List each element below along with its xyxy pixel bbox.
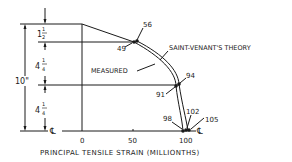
centerline-symbol-left: ℄ [49, 126, 56, 136]
dim-bot-num: 1 [42, 101, 45, 107]
theory-label: SAINT-VENANT'S THEORY [169, 44, 251, 52]
label-98: 98 [163, 115, 172, 123]
point-91 [174, 84, 178, 88]
label-56: 56 [143, 21, 152, 29]
measured-leader [137, 64, 155, 71]
centerline-symbol-right: ℄ [196, 126, 203, 136]
point-105 [187, 128, 191, 132]
tick-label-50: 50 [128, 137, 137, 145]
dim-total: 10" [15, 77, 29, 86]
dim-mid-den: 4 [42, 66, 45, 72]
strain-diagram: 1 1 2 4 1 4 4 1 4 10" ℄ ℄ 0 50 100 PRINC… [0, 0, 292, 162]
dim-mid-whole: 4 [35, 62, 40, 71]
label-105: 105 [205, 116, 218, 124]
dim-mid-num: 1 [42, 57, 45, 63]
label-102: 102 [186, 108, 199, 116]
label-49: 49 [117, 45, 126, 53]
label-91: 91 [156, 91, 165, 99]
dim-top-num: 1 [42, 26, 45, 32]
tick-label-0: 0 [80, 137, 84, 145]
point-94 [177, 82, 181, 86]
xaxis-title: PRINCIPAL TENSILE STRAIN (MILLIONTHS) [40, 149, 200, 157]
dim-top-den: 2 [42, 34, 45, 40]
label-94: 94 [186, 72, 195, 80]
measured-label: MEASURED [91, 67, 128, 75]
point-56 [135, 39, 139, 43]
dim-bot-den: 4 [42, 110, 45, 116]
dim-bot-whole: 4 [35, 106, 40, 115]
tick-label-100: 100 [179, 137, 192, 145]
sloped-line [82, 24, 134, 42]
